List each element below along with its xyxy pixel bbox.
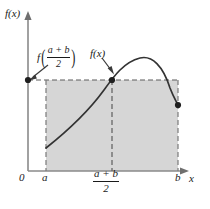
midpoint-value-denominator: 2 [55,59,62,70]
x-tick-label-b: b [175,172,181,183]
midpoint-fraction-numerator: a + b [93,168,119,180]
midpoint-value-label: f ( a + b 2 ) [37,45,77,69]
origin-label: 0 [19,172,25,183]
midpoint-curve-dot [109,77,115,83]
right-endpoint-dot [175,102,181,108]
midpoint-rule-figure: f(x) x 0 a b a + b 2 f(x) f ( a + b 2 ) [0,0,210,209]
y-axis-arrow-icon [24,11,31,20]
midpoint-fraction: a + b 2 [93,168,119,194]
x-axis-arrow-icon [180,167,189,174]
midpoint-fraction-denominator: 2 [102,183,110,195]
y-axis-value-dot [25,77,31,83]
midpoint-value-function-name: f [37,52,40,63]
shaded-rectangle [46,80,178,171]
y-axis-label: f(x) [5,8,20,19]
midpoint-value-fraction: a + b 2 [47,45,71,69]
midpoint-value-close-paren: ) [72,48,76,66]
midpoint-value-numerator: a + b [47,45,71,56]
x-tick-label-midpoint: a + b 2 [93,168,119,194]
x-tick-label-a: a [42,172,48,183]
x-axis-label: x [189,173,194,184]
midpoint-value-open-paren: ( [41,48,45,66]
curve-label: f(x) [90,48,105,59]
